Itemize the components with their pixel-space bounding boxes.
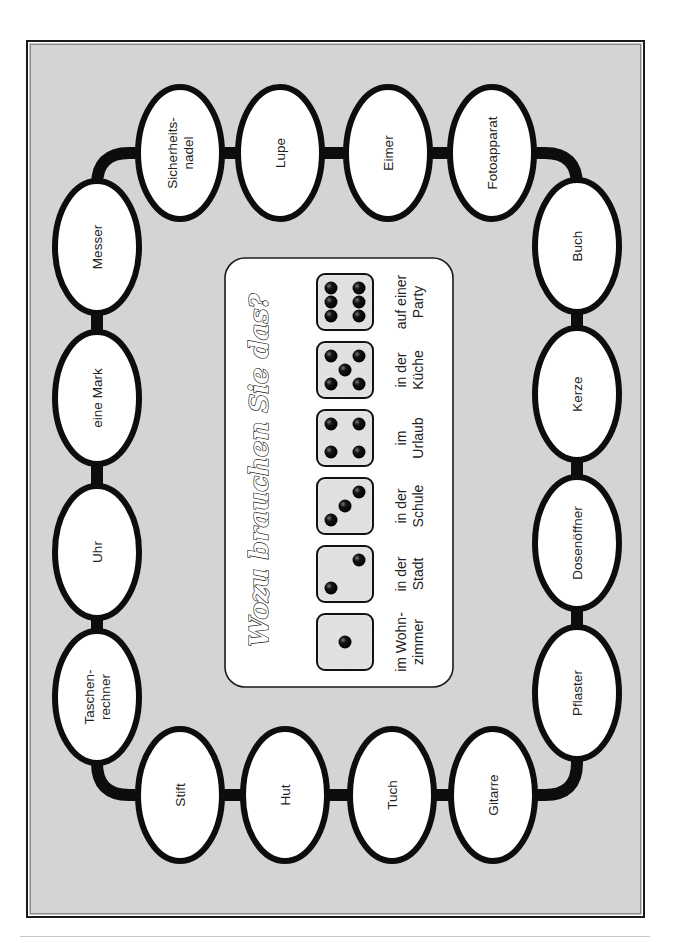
space-label: Dosenöffner (570, 506, 585, 580)
pip (353, 378, 366, 391)
space-label: Kerze (570, 376, 585, 411)
space-label: Taschen-rechner (82, 670, 113, 725)
center-card: Wozu brauchen Sie das? im Wohn-zimmerin … (225, 258, 453, 687)
space-label: Stift (173, 783, 188, 807)
board-space: Taschen-rechner (55, 631, 139, 763)
pip (353, 418, 366, 431)
space-label: Lupe (273, 138, 288, 168)
board-space: Stift (138, 729, 222, 861)
pip (325, 446, 338, 459)
game-board: Sicherheits-nadelLupeEimerFotoapparatBuc… (0, 0, 681, 943)
pip (353, 554, 366, 567)
space-label: eine Mark (90, 368, 105, 428)
space-label: Uhr (90, 541, 105, 563)
pip (353, 446, 366, 459)
space-label: Gitarre (486, 774, 501, 815)
die-label: in derStadt (393, 556, 426, 591)
pip (353, 282, 366, 295)
board-space: Buch (535, 180, 619, 312)
pip (325, 282, 338, 295)
pip (325, 350, 338, 363)
board-space: Pflaster (535, 627, 619, 759)
board-space: Sicherheits-nadel (138, 87, 222, 219)
board-space: Uhr (55, 486, 139, 618)
pip (325, 418, 338, 431)
space-label: Tuch (385, 780, 400, 810)
pip (325, 378, 338, 391)
pip (325, 296, 338, 309)
pip (325, 310, 338, 323)
die-5: in derKüche (317, 342, 426, 398)
board-title: Wozu brauchen Sie das? (244, 293, 274, 647)
die-label: im Wohn-zimmer (393, 612, 426, 672)
space-label: Buch (570, 231, 585, 262)
board-space: Lupe (238, 87, 322, 219)
board-space: Hut (243, 729, 327, 861)
pip (353, 296, 366, 309)
pip (339, 636, 352, 649)
pip (325, 582, 338, 595)
space-oval (138, 87, 222, 219)
pip (353, 350, 366, 363)
board-space: eine Mark (55, 332, 139, 464)
pip (353, 310, 366, 323)
pip (339, 364, 352, 377)
pip (339, 500, 352, 513)
space-oval (55, 631, 139, 763)
die-1: im Wohn-zimmer (317, 612, 426, 672)
die-4: imUrlaub (317, 410, 426, 466)
pip (353, 486, 366, 499)
board-space: Gitarre (451, 729, 535, 861)
die-label: in derKüche (393, 350, 426, 390)
space-label: Pflaster (570, 670, 585, 716)
die-label: in derSchule (393, 484, 426, 527)
board-space: Fotoapparat (450, 87, 534, 219)
space-label: Messer (90, 224, 105, 269)
page-rule (20, 936, 650, 937)
space-label: Hut (278, 784, 293, 805)
board-space: Messer (55, 181, 139, 313)
board-space: Kerze (535, 328, 619, 460)
board-space: Eimer (346, 87, 430, 219)
space-label: Fotoapparat (485, 116, 500, 189)
board-space: Dosenöffner (535, 477, 619, 609)
space-label: Eimer (381, 135, 396, 171)
board-space: Tuch (350, 729, 434, 861)
die-3: in derSchule (317, 478, 426, 534)
pip (325, 514, 338, 527)
